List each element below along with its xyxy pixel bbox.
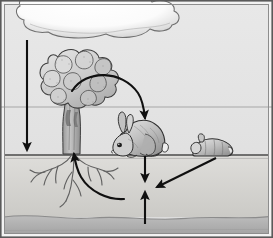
layer-bedrock (4, 216, 269, 234)
diagram-canvas (0, 0, 273, 238)
layer-soil (4, 155, 269, 217)
nutrient-cycle-diagram (0, 0, 273, 238)
